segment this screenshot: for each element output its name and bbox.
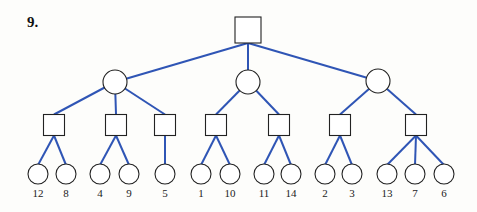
tree-edges xyxy=(38,43,444,165)
edge-decision-to-leaf xyxy=(264,136,279,166)
decision-node xyxy=(206,115,227,136)
leaf-node xyxy=(119,164,139,184)
edge-decision-to-leaf xyxy=(116,136,129,166)
leaf-node xyxy=(155,164,175,184)
leaf-node xyxy=(90,164,110,184)
decision-node xyxy=(406,115,427,136)
edge-root-to-chance xyxy=(248,43,378,81)
leaf-value-label: 11 xyxy=(259,187,270,199)
leaf-node xyxy=(377,164,397,184)
edge-decision-to-leaf xyxy=(340,136,352,166)
edge-decision-to-leaf xyxy=(216,136,230,166)
edge-decision-to-leaf xyxy=(416,136,444,166)
edge-decision-to-leaf xyxy=(100,136,116,166)
leaf-value-label: 8 xyxy=(63,187,69,199)
game-tree-diagram: 1284951101114231376 xyxy=(0,0,477,212)
leaf-value-label: 2 xyxy=(322,187,328,199)
edge-decision-to-leaf xyxy=(387,136,416,166)
decision-node xyxy=(106,115,127,136)
leaf-node xyxy=(254,164,274,184)
leaf-node xyxy=(56,164,76,184)
leaf-node xyxy=(28,164,48,184)
decision-node xyxy=(269,115,290,136)
leaf-value-label: 12 xyxy=(33,187,44,199)
leaf-node xyxy=(434,164,454,184)
leaf-node xyxy=(220,164,240,184)
chance-node xyxy=(366,69,390,93)
leaf-value-label: 7 xyxy=(412,187,418,199)
leaf-node xyxy=(405,164,425,184)
chance-node xyxy=(236,70,260,94)
edge-decision-to-leaf xyxy=(54,136,66,166)
edge-root-to-chance xyxy=(115,43,248,82)
leaf-node xyxy=(281,164,301,184)
edge-decision-to-leaf xyxy=(325,136,340,166)
leaf-value-label: 10 xyxy=(225,187,237,199)
decision-node xyxy=(155,115,176,136)
tree-nodes xyxy=(28,17,454,184)
leaf-node xyxy=(191,164,211,184)
edge-decision-to-leaf xyxy=(415,136,416,166)
leaf-node xyxy=(315,164,335,184)
decision-node xyxy=(44,115,65,136)
leaf-value-label: 13 xyxy=(382,187,394,199)
leaf-value-label: 4 xyxy=(97,187,103,199)
root-decision-node xyxy=(235,17,261,43)
leaf-value-label: 6 xyxy=(441,187,447,199)
leaf-node xyxy=(342,164,362,184)
decision-node xyxy=(330,115,351,136)
edge-decision-to-leaf xyxy=(201,136,216,166)
edge-decision-to-leaf xyxy=(38,136,54,166)
leaf-labels: 1284951101114231376 xyxy=(33,187,448,199)
leaf-value-label: 14 xyxy=(286,187,298,199)
chance-node xyxy=(103,70,127,94)
leaf-value-label: 5 xyxy=(162,187,168,199)
leaf-value-label: 9 xyxy=(126,187,132,199)
leaf-value-label: 3 xyxy=(349,187,355,199)
edge-decision-to-leaf xyxy=(279,136,291,166)
leaf-value-label: 1 xyxy=(198,187,204,199)
